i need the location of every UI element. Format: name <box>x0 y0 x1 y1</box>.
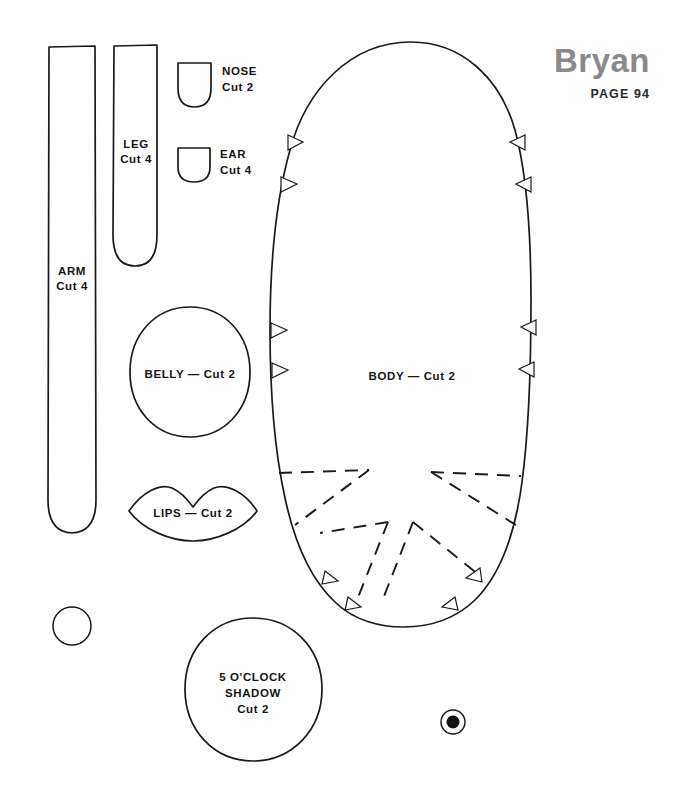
five-oclock-shadow-label-line1: 5 O'CLOCK <box>219 671 287 683</box>
arm-label-cut: Cut 4 <box>56 280 88 292</box>
pattern-sheet: Bryan PAGE 94 ARM Cut 4 LEG Cut 4 NOSE C… <box>0 0 676 812</box>
small-circle-outline <box>53 607 91 645</box>
body-outline <box>270 42 531 627</box>
ear-label-cut: Cut 4 <box>220 164 252 176</box>
nose-label-cut: Cut 2 <box>222 81 254 93</box>
nose-outline <box>178 63 211 107</box>
page-number-label: PAGE 94 <box>590 87 650 101</box>
ear-label-name: EAR <box>220 148 246 160</box>
page-title: Bryan <box>554 42 650 79</box>
belly-label: BELLY — Cut 2 <box>145 368 236 380</box>
body-label: BODY — Cut 2 <box>369 370 456 382</box>
pattern-piece-arm: ARM Cut 4 <box>48 46 96 533</box>
five-oclock-shadow-label-line2: SHADOW <box>225 687 281 699</box>
five-oclock-shadow-label-line3: Cut 2 <box>237 703 269 715</box>
pattern-piece-small-circle <box>53 607 91 645</box>
pattern-piece-ear: EAR Cut 4 <box>178 148 252 182</box>
lips-label: LIPS — Cut 2 <box>153 507 232 519</box>
pattern-piece-leg: LEG Cut 4 <box>113 45 157 266</box>
pattern-piece-eye-dot <box>441 710 465 734</box>
arm-label-name: ARM <box>58 265 86 277</box>
pattern-piece-five-oclock-shadow: 5 O'CLOCK SHADOW Cut 2 <box>185 618 322 761</box>
nose-label-name: NOSE <box>222 65 257 77</box>
leg-label-cut: Cut 4 <box>120 153 152 165</box>
ear-outline <box>178 148 210 182</box>
pattern-piece-belly: BELLY — Cut 2 <box>130 307 250 437</box>
eye-dot-center <box>447 716 460 729</box>
pattern-piece-lips: LIPS — Cut 2 <box>129 487 257 541</box>
pattern-piece-nose: NOSE Cut 2 <box>178 63 257 107</box>
leg-label-name: LEG <box>123 138 148 150</box>
pattern-piece-body: BODY — Cut 2 <box>270 42 536 627</box>
